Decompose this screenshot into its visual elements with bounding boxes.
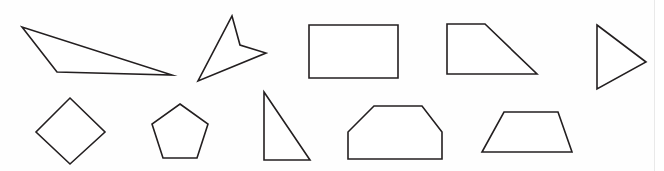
page-right-edge (654, 0, 664, 171)
shape-right-pointing-triangle (597, 25, 646, 89)
shape-concave-dart-arrowhead (198, 16, 266, 81)
shape-obtuse-scalene-triangle (22, 27, 172, 75)
shapes-canvas (0, 0, 664, 171)
shape-right-trapezoid (447, 24, 537, 74)
shapes-figure (0, 0, 664, 171)
shape-rhombus-diamond (36, 98, 105, 164)
shape-rectangle (309, 25, 398, 78)
shape-irregular-hexagon (348, 106, 442, 159)
shape-right-triangle (264, 92, 310, 160)
shape-regular-pentagon (152, 104, 208, 158)
shape-isosceles-trapezoid (482, 112, 572, 152)
